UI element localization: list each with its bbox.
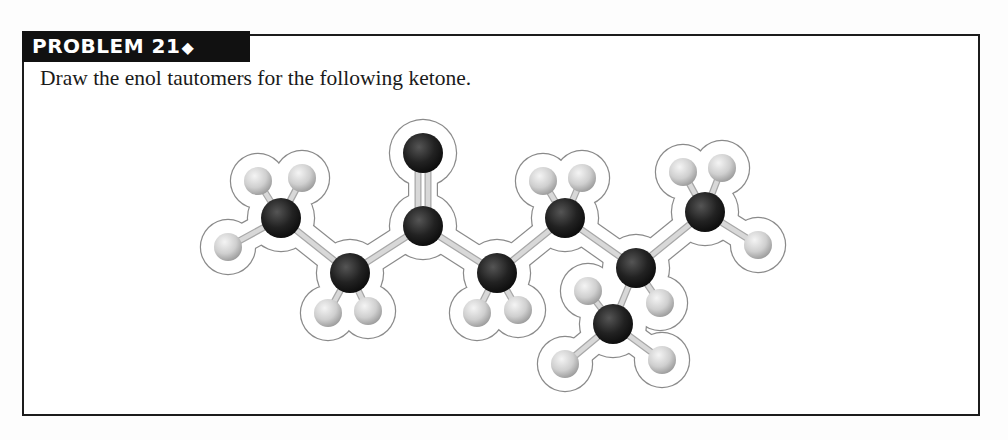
hydrogen-atom xyxy=(463,299,491,327)
hydrogen-atom xyxy=(551,350,579,378)
molecule-atoms xyxy=(214,133,772,378)
hydrogen-atom xyxy=(529,167,557,195)
hydrogen-atom xyxy=(214,233,242,261)
hydrogen-atom xyxy=(244,167,272,195)
hydrogen-atom xyxy=(568,164,596,192)
carbon-atom xyxy=(330,253,370,293)
carbon-atom xyxy=(261,198,301,238)
hydrogen-atom xyxy=(646,289,674,317)
hydrogen-atom xyxy=(354,297,382,325)
carbon-atom xyxy=(403,206,443,246)
hydrogen-atom xyxy=(288,164,316,192)
hydrogen-atom xyxy=(504,296,532,324)
carbon-atom xyxy=(616,248,656,288)
oxygen-atom xyxy=(403,133,443,173)
hydrogen-atom xyxy=(314,299,342,327)
ball-and-stick-molecule xyxy=(0,0,1008,440)
carbon-atom xyxy=(593,304,633,344)
hydrogen-atom xyxy=(648,346,676,374)
carbon-atom xyxy=(477,253,517,293)
carbon-atom xyxy=(685,192,725,232)
hydrogen-atom xyxy=(708,154,736,182)
hydrogen-atom xyxy=(574,277,602,305)
carbon-atom xyxy=(545,198,585,238)
hydrogen-atom xyxy=(744,231,772,259)
hydrogen-atom xyxy=(669,158,697,186)
